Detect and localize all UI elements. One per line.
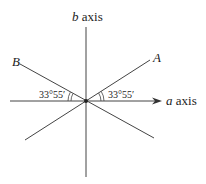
diagram-canvas: b axis a axis B A 33°55′ 33°55′ xyxy=(0,0,206,184)
angle-label-right: 33°55′ xyxy=(108,89,134,100)
origin-point xyxy=(84,99,88,103)
angle-arc-left-inner xyxy=(71,94,73,101)
a-axis-label: a axis xyxy=(166,93,197,108)
angle-arc-right-inner xyxy=(99,93,101,101)
line-b-label: B xyxy=(12,54,20,69)
b-axis-label: b axis xyxy=(72,9,103,24)
line-a-label: A xyxy=(152,50,161,65)
angle-arc-left-outer xyxy=(68,92,70,101)
angle-arc-right-outer xyxy=(101,91,104,101)
angle-label-left: 33°55′ xyxy=(39,89,65,100)
